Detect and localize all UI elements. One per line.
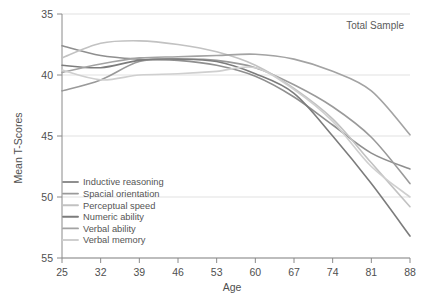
x-tick-label: 81 — [365, 266, 377, 278]
y-axis-ticks: 5550454035 — [41, 8, 62, 264]
legend-label-2: Perceptual speed — [83, 201, 155, 211]
x-tick-label: 74 — [327, 266, 339, 278]
legend-label-1: Spacial orientation — [83, 189, 160, 199]
x-tick-label: 25 — [56, 266, 68, 278]
y-tick-label: 45 — [41, 130, 53, 142]
legend-label-0: Inductive reasoning — [83, 177, 164, 187]
x-axis-title: Age — [223, 281, 242, 293]
y-axis-title: Mean T-Scores — [12, 112, 24, 183]
x-tick-label: 88 — [404, 266, 416, 278]
y-tick-label: 35 — [41, 8, 53, 20]
x-tick-label: 39 — [133, 266, 145, 278]
legend-label-3: Numeric ability — [83, 212, 144, 222]
x-tick-label: 53 — [211, 266, 223, 278]
x-tick-label: 67 — [288, 266, 300, 278]
x-tick-label: 32 — [95, 266, 107, 278]
x-tick-label: 60 — [249, 266, 261, 278]
y-tick-label: 55 — [41, 252, 53, 264]
chart-legend: Inductive reasoningSpacial orientationPe… — [63, 177, 164, 245]
series-line — [62, 59, 410, 184]
legend-label-4: Verbal ability — [83, 224, 136, 234]
x-axis-ticks: 25323946536067748188 — [56, 258, 416, 278]
x-tick-label: 46 — [172, 266, 184, 278]
y-tick-label: 50 — [41, 191, 53, 203]
legend-label-5: Verbal memory — [83, 235, 146, 245]
chart-container: 5550454035 25323946536067748188 Mean T-S… — [0, 0, 424, 298]
total-sample-annotation: Total Sample — [346, 20, 404, 31]
line-chart: 5550454035 25323946536067748188 Mean T-S… — [0, 0, 424, 298]
y-tick-label: 40 — [41, 69, 53, 81]
